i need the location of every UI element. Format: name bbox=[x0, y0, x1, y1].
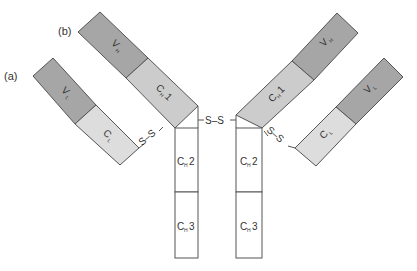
antibody-diagram: (a) (b) V H C H 1 V L C L V H C H 1 V L … bbox=[0, 0, 417, 271]
svg-text:H: H bbox=[247, 227, 251, 233]
svg-text:3: 3 bbox=[189, 221, 195, 232]
svg-text:H: H bbox=[184, 162, 188, 168]
label-b: (b) bbox=[58, 25, 71, 37]
hinge-disulfide-label: S–S bbox=[205, 115, 224, 126]
svg-text:2: 2 bbox=[189, 156, 195, 167]
svg-text:3: 3 bbox=[252, 221, 258, 232]
svg-text:H: H bbox=[247, 162, 251, 168]
right-disulfide-label: S–S bbox=[265, 124, 287, 145]
svg-text:H: H bbox=[184, 227, 188, 233]
label-a: (a) bbox=[4, 70, 17, 82]
svg-text:2: 2 bbox=[252, 156, 258, 167]
left-disulfide-label: S–S bbox=[136, 127, 158, 148]
